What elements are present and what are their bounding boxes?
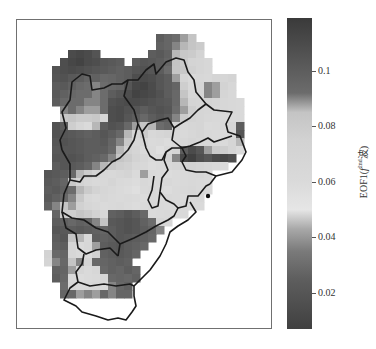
heatmap-cell: [228, 106, 237, 115]
heatmap-cell: [164, 34, 173, 43]
heatmap-cell: [68, 114, 77, 123]
heatmap-cell: [124, 202, 133, 211]
heatmap-cell: [68, 242, 77, 251]
heatmap-cell: [204, 162, 213, 171]
heatmap-cell: [84, 250, 93, 259]
heatmap-cell: [140, 114, 149, 123]
heatmap-cell: [196, 162, 205, 171]
heatmap-cell: [92, 202, 101, 211]
heatmap-cell: [172, 202, 181, 211]
heatmap-cell: [172, 122, 181, 131]
heatmap-cell: [108, 178, 117, 187]
heatmap-cell: [164, 218, 173, 227]
heatmap-cell: [124, 66, 133, 75]
heatmap-cell: [84, 106, 93, 115]
heatmap-cell: [60, 82, 69, 91]
heatmap-cell: [108, 98, 117, 107]
heatmap-cell: [108, 194, 117, 203]
heatmap-cell: [100, 186, 109, 195]
heatmap-cell: [196, 74, 205, 83]
heatmap-cell: [188, 106, 197, 115]
heatmap-cell: [196, 186, 205, 195]
heatmap-cell: [164, 122, 173, 131]
heatmap-cell: [228, 90, 237, 99]
heatmap-cell: [124, 82, 133, 91]
heatmap-cell: [84, 266, 93, 275]
heatmap-cell: [116, 274, 125, 283]
colorbar: [287, 18, 312, 329]
heatmap-cell: [220, 154, 229, 163]
heatmap-cell: [116, 194, 125, 203]
heatmap-cell: [172, 74, 181, 83]
heatmap-cell: [220, 162, 229, 171]
colorbar-tick: [312, 237, 316, 238]
heatmap-cell: [84, 226, 93, 235]
heatmap-cell: [92, 114, 101, 123]
heatmap-cell: [100, 226, 109, 235]
heatmap-cell: [60, 234, 69, 243]
heatmap-cell: [92, 162, 101, 171]
heatmap-cell: [108, 138, 117, 147]
heatmap-cell: [92, 170, 101, 179]
heatmap-cell: [124, 98, 133, 107]
heatmap-cell: [212, 138, 221, 147]
heatmap-cell: [212, 130, 221, 139]
colorbar-label: EOF1(f2nd波): [355, 146, 370, 198]
heatmap-cell: [108, 242, 117, 251]
heatmap-cell: [84, 234, 93, 243]
heatmap-cell: [140, 106, 149, 115]
heatmap-cell: [68, 66, 77, 75]
heatmap-cell: [172, 210, 181, 219]
heatmap-cell: [172, 106, 181, 115]
heatmap-cell: [60, 186, 69, 195]
heatmap-cell: [116, 130, 125, 139]
heatmap-cell: [204, 186, 213, 195]
heatmap-cell: [196, 170, 205, 179]
heatmap-cell: [68, 162, 77, 171]
heatmap-cell: [212, 122, 221, 131]
heatmap-cell: [132, 202, 141, 211]
heatmap-cell: [100, 210, 109, 219]
heatmap-cell: [188, 74, 197, 83]
colorbar-label-sup: 2nd: [357, 159, 363, 168]
heatmap-cell: [92, 290, 101, 299]
heatmap-cell: [52, 170, 61, 179]
heatmap-cell: [164, 186, 173, 195]
heatmap-cell: [132, 250, 141, 259]
heatmap-cell: [196, 178, 205, 187]
heatmap-cell: [84, 66, 93, 75]
heatmap-cell: [100, 98, 109, 107]
heatmap-cell: [148, 114, 157, 123]
heatmap-cell: [100, 146, 109, 155]
heatmap-cell: [148, 186, 157, 195]
heatmap-cell: [204, 74, 213, 83]
heatmap-cell: [132, 170, 141, 179]
heatmap-cell: [92, 74, 101, 83]
heatmap-cell: [124, 258, 133, 267]
heatmap-cell: [140, 170, 149, 179]
heatmap-cell: [116, 210, 125, 219]
heatmap-cell: [204, 178, 213, 187]
colorbar-tick: [312, 293, 316, 294]
heatmap-cell: [236, 146, 245, 155]
heatmap-cell: [68, 170, 77, 179]
heatmap-cell: [164, 202, 173, 211]
heatmap-cell: [84, 290, 93, 299]
heatmap-cell: [116, 170, 125, 179]
heatmap-cell: [204, 82, 213, 91]
heatmap-cell: [116, 122, 125, 131]
heatmap-cell: [156, 82, 165, 91]
heatmap-cell: [196, 114, 205, 123]
heatmap-cell: [124, 106, 133, 115]
heatmap-cell: [60, 194, 69, 203]
heatmap-cell: [132, 106, 141, 115]
heatmap-cell: [148, 74, 157, 83]
heatmap-cell: [132, 82, 141, 91]
heatmap-cell: [84, 130, 93, 139]
heatmap-cell: [116, 146, 125, 155]
heatmap-cell: [84, 154, 93, 163]
heatmap-cell: [108, 202, 117, 211]
heatmap-cell: [180, 114, 189, 123]
heatmap-cell: [196, 106, 205, 115]
heatmap-cell: [124, 178, 133, 187]
